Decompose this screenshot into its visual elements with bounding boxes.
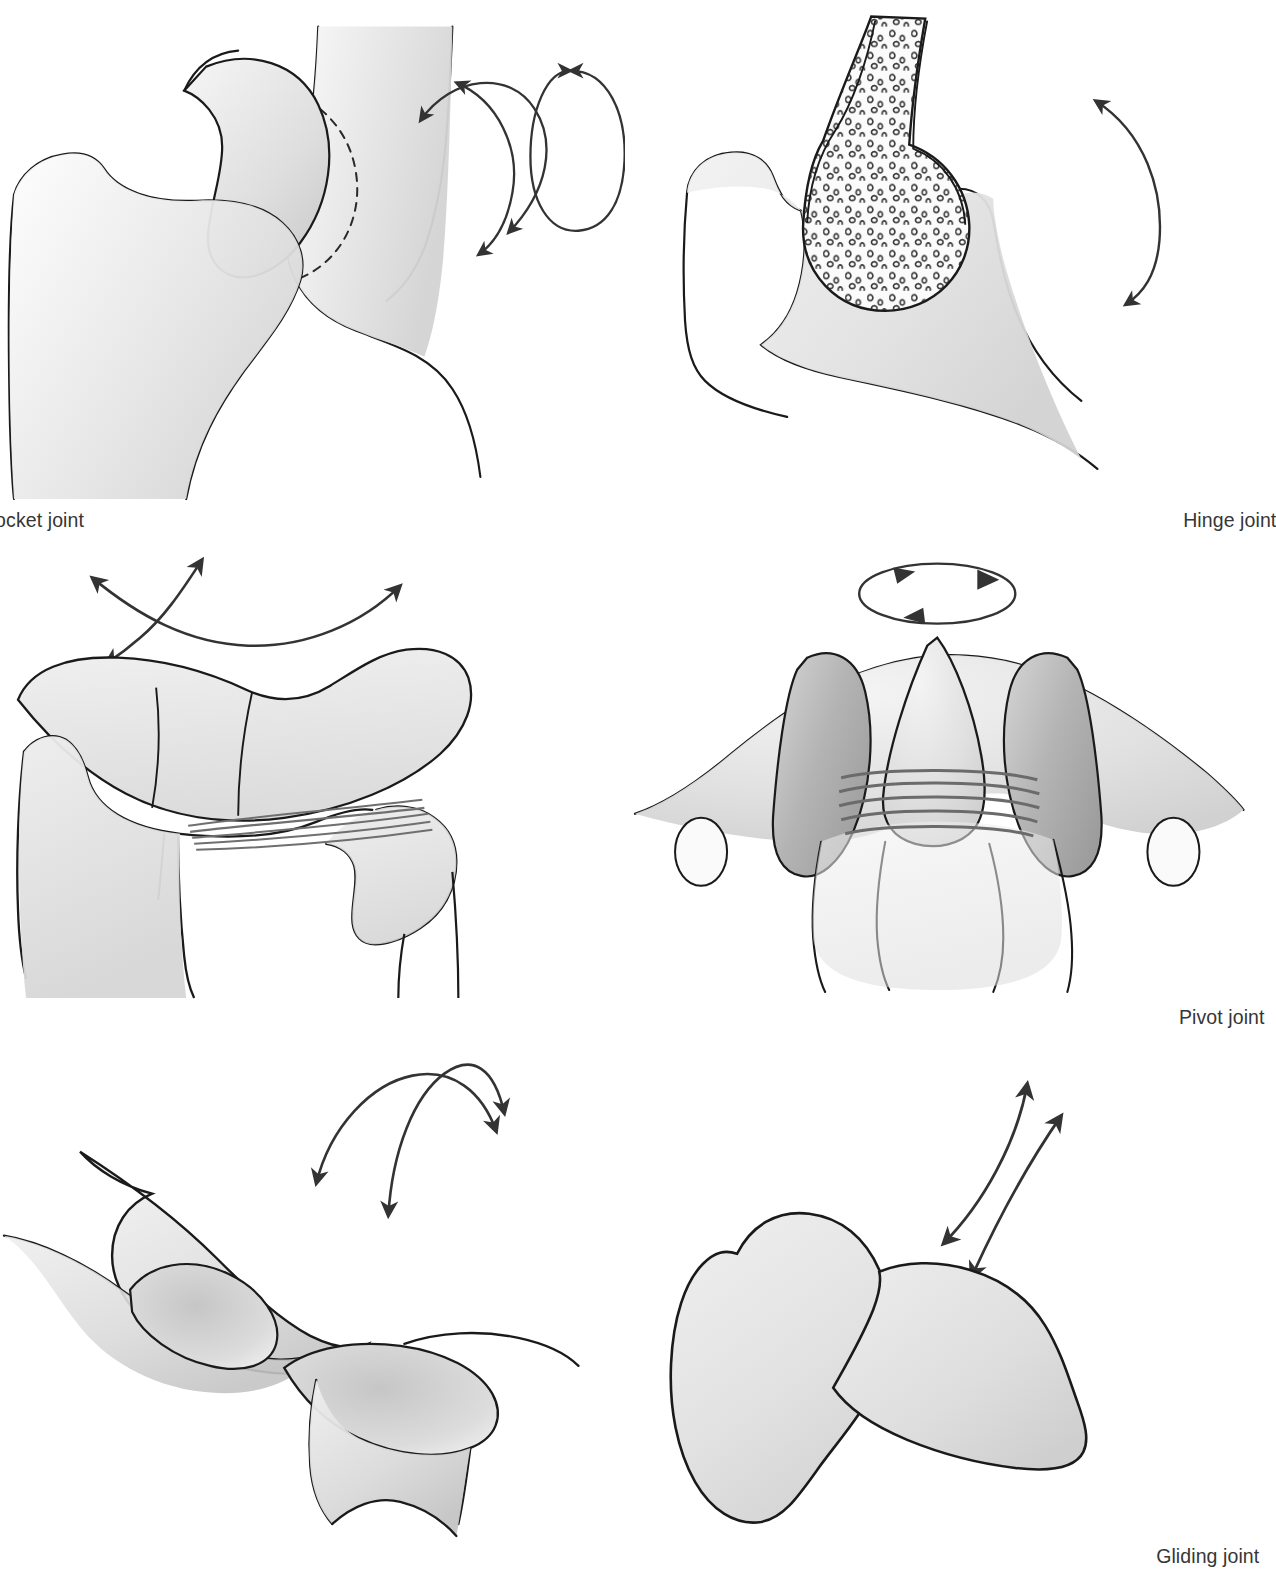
arched-double-arrow-2 [388,1065,504,1216]
saddle-motion-arrows [316,1065,504,1216]
panel-saddle: Saddle joint [0,1034,625,1573]
rotation-arrowhead-left [893,568,915,584]
flexion-extension-arrow [1095,101,1160,305]
trabecular-bone-texture [795,13,981,317]
panel-hinge: Hinge joint [625,0,1250,537]
ball-and-socket-illustration [0,0,625,510]
panel-ball-and-socket: Ball and socket joint [0,0,625,537]
curved-double-arrow-2 [106,560,202,664]
panel-caption-gliding: Gliding joint [1156,1546,1259,1573]
straight-double-arrow-2 [971,1116,1061,1278]
panel-condyloid: Condyloid joint [0,537,625,1034]
transverse-foramen-right [1147,818,1199,886]
metacarpal-base-bone [284,1333,578,1536]
gliding-motion-arrows [943,1084,1061,1278]
panel-pivot: Pivot joint [625,537,1250,1034]
gliding-illustration [625,1034,1250,1546]
straight-double-arrow-1 [943,1084,1027,1244]
biaxial-motion-arrows [92,560,400,664]
condyle-bone [795,13,981,317]
panel-gliding: Gliding joint [625,1034,1250,1573]
pivot-illustration [625,537,1250,1007]
panel-caption-hinge: Hinge joint [1183,510,1276,537]
saddle-illustration [0,1034,625,1546]
transverse-foramen-left [675,818,727,886]
panel-caption-ball-and-socket: Ball and socket joint [0,510,84,537]
circumduction-loop-arrow [530,71,624,231]
panel-caption-pivot: Pivot joint [1179,1007,1265,1034]
curved-double-arrow-1 [92,578,400,646]
rotation-arrow [859,564,1015,624]
condyloid-illustration [0,537,625,1007]
hinge-illustration [625,0,1250,510]
curved-double-arrow-2 [456,83,514,255]
